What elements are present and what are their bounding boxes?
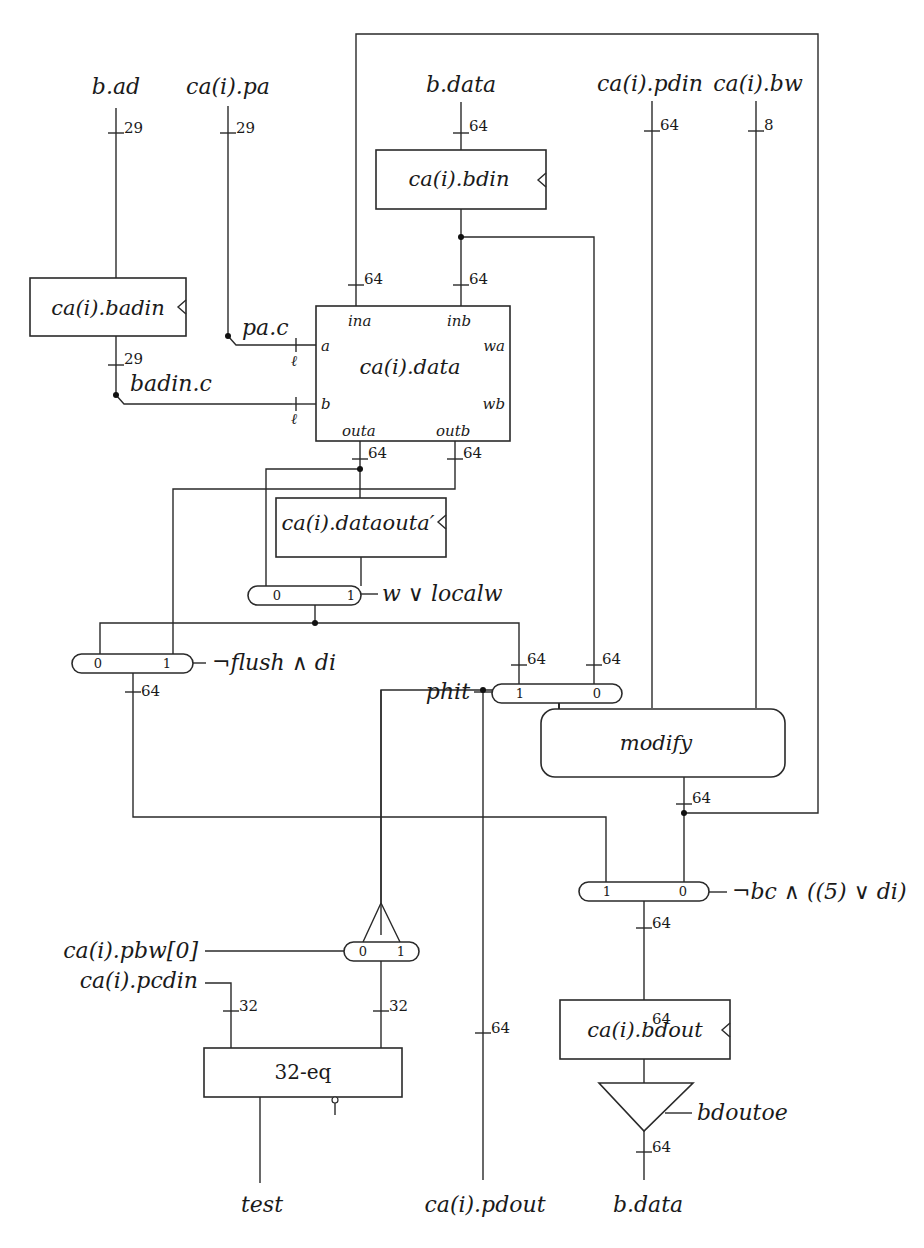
svg-text:1: 1 xyxy=(603,884,611,899)
svg-text:test: test xyxy=(241,1192,283,1217)
svg-text:64: 64 xyxy=(141,682,160,700)
mux-pbw: 0 1 xyxy=(344,942,419,961)
svg-text:wb: wb xyxy=(483,395,505,413)
svg-text:0: 0 xyxy=(94,656,102,671)
svg-text:modify: modify xyxy=(620,731,693,755)
svg-text:ca(i).pdin: ca(i).pdin xyxy=(597,71,703,96)
svg-text:1: 1 xyxy=(397,944,405,959)
svg-text:64: 64 xyxy=(469,117,488,135)
mux-local: 0 1 xyxy=(248,586,361,605)
svg-text:29: 29 xyxy=(236,119,255,137)
svg-text:32-eq: 32-eq xyxy=(275,1060,332,1084)
svg-text:64: 64 xyxy=(527,650,546,668)
tristate-driver xyxy=(599,1083,693,1131)
svg-text:32: 32 xyxy=(239,997,258,1015)
svg-text:ca(i).bdin: ca(i).bdin xyxy=(408,167,509,191)
svg-text:outb: outb xyxy=(436,422,470,440)
svg-text:ℓ: ℓ xyxy=(291,410,297,428)
svg-text:64: 64 xyxy=(491,1019,510,1037)
svg-text:64: 64 xyxy=(469,270,488,288)
svg-text:64: 64 xyxy=(692,789,711,807)
register-badin: ca(i).badin xyxy=(30,278,186,336)
svg-text:64: 64 xyxy=(463,444,482,462)
svg-text:inb: inb xyxy=(447,312,471,330)
svg-text:wa: wa xyxy=(483,337,505,355)
svg-text:b.ad: b.ad xyxy=(92,74,140,99)
svg-text:0: 0 xyxy=(359,944,367,959)
svg-text:b.data: b.data xyxy=(613,1192,683,1217)
register-dataouta: ca(i).dataouta′ xyxy=(276,498,446,557)
svg-text:64: 64 xyxy=(652,1010,671,1028)
svg-text:64: 64 xyxy=(602,650,621,668)
svg-text:0: 0 xyxy=(679,884,687,899)
svg-text:ca(i).data: ca(i).data xyxy=(360,355,461,379)
svg-text:8: 8 xyxy=(764,116,774,134)
svg-text:¬bc ∧ ((5) ∨ di): ¬bc ∧ ((5) ∨ di) xyxy=(732,879,906,904)
svg-text:b.data: b.data xyxy=(426,72,496,97)
svg-text:phit: phit xyxy=(426,679,470,704)
register-bdout: ca(i).bdout xyxy=(560,1000,730,1059)
svg-text:pa.c: pa.c xyxy=(242,315,289,340)
svg-text:ca(i).pcdin: ca(i).pcdin xyxy=(80,968,198,993)
cache-datapath-diagram: ca(i).badin ca(i).bdin ca(i).dataouta′ c… xyxy=(0,0,924,1248)
svg-text:29: 29 xyxy=(124,119,143,137)
svg-text:64: 64 xyxy=(660,116,679,134)
ram-ca-data: ca(i).data ina inb a b wa wb outa outb xyxy=(316,306,510,441)
svg-text:ca(i).pdout: ca(i).pdout xyxy=(424,1192,545,1217)
modify-block: modify xyxy=(541,709,785,777)
svg-text:64: 64 xyxy=(652,1138,671,1156)
svg-text:w ∨ localw: w ∨ localw xyxy=(382,581,503,606)
svg-text:1: 1 xyxy=(347,588,355,603)
svg-text:ca(i).bw: ca(i).bw xyxy=(713,71,803,96)
register-bdin: ca(i).bdin xyxy=(376,150,546,209)
svg-text:ca(i).pa: ca(i).pa xyxy=(186,74,270,99)
svg-text:0: 0 xyxy=(593,686,601,701)
svg-text:64: 64 xyxy=(364,270,383,288)
svg-text:32: 32 xyxy=(389,997,408,1015)
svg-text:29: 29 xyxy=(124,350,143,368)
svg-text:64: 64 xyxy=(652,914,671,932)
eq32-block: 32-eq xyxy=(204,1048,402,1103)
svg-text:b: b xyxy=(321,395,331,413)
svg-text:badin.c: badin.c xyxy=(130,371,212,396)
bus-ticks xyxy=(108,131,764,1152)
svg-text:1: 1 xyxy=(516,686,524,701)
svg-text:outa: outa xyxy=(342,422,376,440)
mux-flush: 0 1 xyxy=(72,654,193,673)
svg-text:bdoutoe: bdoutoe xyxy=(697,1100,788,1125)
svg-text:ca(i).dataouta′: ca(i).dataouta′ xyxy=(282,511,435,535)
svg-text:0: 0 xyxy=(273,588,281,603)
output-labels: test ca(i).pdout b.data xyxy=(241,1192,683,1217)
svg-text:1: 1 xyxy=(163,656,171,671)
svg-text:ca(i).bdout: ca(i).bdout xyxy=(587,1018,703,1042)
svg-text:¬flush ∧ di: ¬flush ∧ di xyxy=(212,650,336,675)
mux-phit: 1 0 xyxy=(492,684,622,703)
svg-text:ina: ina xyxy=(348,312,371,330)
mux-bout: 1 0 xyxy=(579,882,709,901)
svg-text:64: 64 xyxy=(368,444,387,462)
svg-text:ca(i).badin: ca(i).badin xyxy=(51,296,165,320)
svg-text:ℓ: ℓ xyxy=(291,352,297,370)
svg-text:ca(i).pbw[0]: ca(i).pbw[0] xyxy=(63,938,198,963)
svg-text:a: a xyxy=(321,337,330,355)
